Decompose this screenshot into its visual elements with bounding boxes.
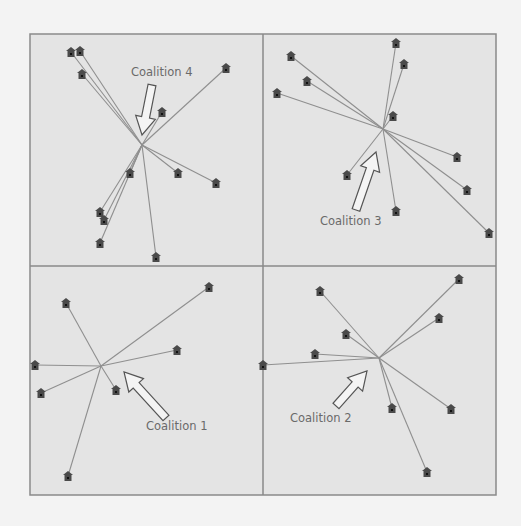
coalition-label: Coalition 1 bbox=[146, 419, 208, 433]
coalition-label: Coalition 4 bbox=[131, 65, 193, 79]
diagram-canvas: Coalition 4Coalition 3Coalition 1Coaliti… bbox=[0, 0, 521, 526]
panel-grid bbox=[30, 34, 496, 495]
coalition-label: Coalition 2 bbox=[290, 411, 352, 425]
coalition-label: Coalition 3 bbox=[320, 214, 382, 228]
coalition-diagram: Coalition 4Coalition 3Coalition 1Coaliti… bbox=[0, 0, 521, 526]
